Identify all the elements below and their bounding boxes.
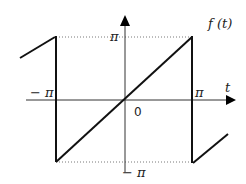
x-tick-pi: π <box>194 85 204 100</box>
origin-label: 0 <box>134 105 142 119</box>
t-axis-label: t <box>225 80 231 95</box>
x-axis-arrow-icon <box>226 95 236 105</box>
sawtooth-chart: f (t) t π − π − π π 0 <box>0 0 246 184</box>
x-tick-neg-pi: − π <box>30 85 54 100</box>
y-tick-pi: π <box>109 29 119 44</box>
y-tick-neg-pi: − π <box>122 165 146 180</box>
function-label: f (t) <box>207 16 232 31</box>
y-axis-arrow-icon <box>120 15 130 26</box>
